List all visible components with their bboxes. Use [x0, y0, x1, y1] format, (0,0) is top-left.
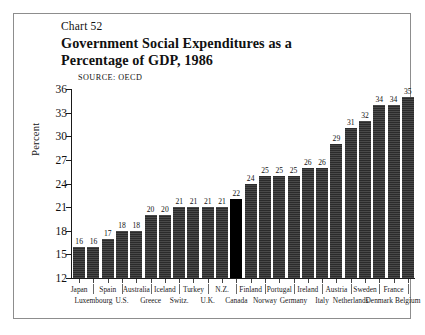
x-axis-category-label: Germany	[280, 296, 308, 305]
bar: 25	[259, 176, 271, 278]
bar-value-label: 25	[261, 167, 269, 175]
bar-value-label: 24	[247, 175, 255, 183]
bar-value-label: 25	[290, 167, 298, 175]
x-axis-label-separator	[122, 284, 123, 294]
chart-number: Chart 52	[61, 19, 391, 34]
figure-frame: Chart 52 Government Social Expenditures …	[13, 13, 411, 319]
x-axis-tick-mark	[308, 279, 309, 283]
y-axis-tick-label: 36	[56, 83, 68, 95]
bar: 34	[388, 105, 400, 278]
x-axis-category-label: Luxembourg	[74, 296, 112, 305]
x-axis-label-separator	[236, 284, 237, 294]
bar: 20	[145, 215, 157, 278]
figure-header: Chart 52 Government Social Expenditures …	[61, 19, 391, 82]
x-axis-tick-mark	[294, 279, 295, 283]
bar: 18	[116, 231, 128, 278]
y-axis-tick-label: 12	[56, 272, 68, 284]
bar-value-label: 34	[375, 96, 383, 104]
x-axis-category-label: Denmark	[366, 296, 394, 305]
page-title: Government Social Expenditures as a Perc…	[61, 35, 321, 69]
bar-value-label: 20	[147, 206, 155, 214]
x-axis-tick-mark	[351, 279, 352, 283]
bar-value-label: 16	[75, 238, 83, 246]
bar-value-label: 21	[190, 198, 198, 206]
x-axis-tick-mark	[394, 279, 395, 283]
x-axis-category-label: Italy	[315, 296, 329, 305]
y-axis-tick-label: 18	[56, 225, 68, 237]
bar: 29	[330, 144, 342, 278]
bar: 24	[245, 184, 257, 279]
bar-value-label: 32	[361, 112, 369, 120]
bar: 32	[359, 121, 371, 279]
x-axis-category-label: Belgium	[395, 296, 420, 305]
x-axis-category-label: Turkey	[183, 285, 204, 294]
bar-value-label: 31	[347, 119, 355, 127]
x-axis-tick-mark	[365, 279, 366, 283]
bar: 17	[102, 239, 114, 278]
x-axis-tick-mark	[93, 279, 94, 283]
x-axis-tick-mark	[151, 279, 152, 283]
x-axis-category-label: Japan	[71, 285, 88, 294]
x-axis-category-label: Greece	[140, 296, 161, 305]
x-axis-category-label: Australia	[123, 285, 150, 294]
bar: 35	[402, 97, 414, 278]
y-axis-tick-label: 21	[56, 201, 68, 213]
bar-value-label: 18	[133, 222, 141, 230]
x-axis-tick-mark	[122, 279, 123, 283]
x-axis-category-label: Sweden	[353, 285, 376, 294]
bar: 20	[159, 215, 171, 278]
x-axis-tick-mark	[236, 279, 237, 283]
bar-value-label: 20	[161, 206, 169, 214]
y-axis-tick-label: 15	[56, 248, 68, 260]
bar-value-label: 26	[318, 159, 326, 167]
x-axis-tick-mark	[193, 279, 194, 283]
x-axis-label-separator	[408, 284, 409, 294]
x-axis-category-label: Austria	[326, 285, 348, 294]
x-axis-label-separator	[151, 284, 152, 294]
bar: 21	[173, 207, 185, 278]
bar: 34	[373, 105, 385, 278]
x-axis-category-label: U.S.	[115, 296, 128, 305]
x-axis-label-separator	[265, 284, 266, 294]
x-axis-category-label: Spain	[99, 285, 116, 294]
y-axis-title: Percent	[30, 122, 41, 156]
bar: 25	[273, 176, 285, 278]
bar-value-label: 35	[404, 88, 412, 96]
bar: 18	[130, 231, 142, 278]
bar: 21	[202, 207, 214, 278]
y-axis-tick-label: 33	[56, 107, 68, 119]
bar-value-label: 16	[90, 238, 98, 246]
bar-value-label: 29	[333, 135, 341, 143]
x-axis-label-separator	[294, 284, 295, 294]
x-axis-tick-mark	[165, 279, 166, 283]
x-axis-label-separator	[322, 284, 323, 294]
plot-area: 1616171818202021212121222425252526262931…	[71, 89, 414, 278]
x-axis-label-separator	[208, 284, 209, 294]
bar-value-label: 18	[118, 222, 126, 230]
bar-value-label: 34	[390, 96, 398, 104]
x-axis-category-labels: JapanLuxembourgSpainU.S.AustraliaGreeceI…	[71, 279, 415, 319]
x-axis-category-label: Ireland	[297, 285, 318, 294]
x-axis-label-separator	[351, 284, 352, 294]
y-axis-tick-label: 24	[56, 178, 68, 190]
x-axis-category-label: Norway	[253, 296, 277, 305]
bar-value-label: 21	[218, 198, 226, 206]
bar-value-label: 21	[175, 198, 183, 206]
x-axis-tick-mark	[336, 279, 337, 283]
bar: 31	[345, 128, 357, 278]
bar: 21	[187, 207, 199, 278]
x-axis-tick-mark	[408, 279, 409, 283]
bar: 21	[216, 207, 228, 278]
bar: 16	[87, 247, 99, 279]
x-axis-category-label: Iceland	[154, 285, 176, 294]
x-axis-tick-mark	[379, 279, 380, 283]
x-axis-tick-mark	[251, 279, 252, 283]
bar: 25	[288, 176, 300, 278]
bar-value-label: 21	[204, 198, 212, 206]
x-axis-category-label: Finland	[239, 285, 262, 294]
y-axis-tick-label: 27	[56, 154, 68, 166]
x-axis-category-label: U.K.	[201, 296, 215, 305]
bar: 26	[302, 168, 314, 278]
x-axis-category-label: Canada	[225, 296, 247, 305]
x-axis-category-label: N.Z.	[215, 285, 229, 294]
